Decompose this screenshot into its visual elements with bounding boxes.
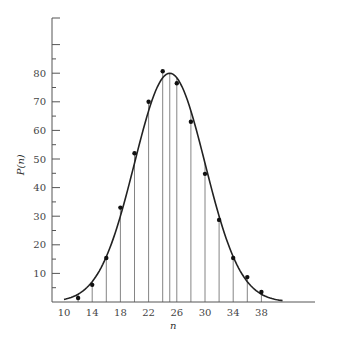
fit-curve-group bbox=[64, 73, 283, 300]
x-tick-label: 38 bbox=[255, 307, 268, 318]
y-tick-label: 70 bbox=[33, 96, 46, 107]
y-tick-label: 40 bbox=[33, 182, 46, 193]
data-point bbox=[161, 69, 165, 73]
data-point bbox=[146, 100, 150, 104]
stems-group bbox=[78, 71, 261, 302]
y-tick-label: 10 bbox=[33, 268, 46, 279]
y-tick-label: 50 bbox=[33, 154, 46, 165]
y-tick-label: 30 bbox=[33, 211, 46, 222]
y-tick-label: 20 bbox=[33, 239, 46, 250]
data-point bbox=[189, 120, 193, 124]
data-point bbox=[203, 172, 207, 176]
x-axis-label: n bbox=[170, 320, 176, 331]
y-axis-label: P(n) bbox=[15, 154, 26, 176]
data-point bbox=[90, 283, 94, 287]
data-point bbox=[259, 290, 263, 294]
x-tick-label: 22 bbox=[142, 307, 155, 318]
x-tick-label: 14 bbox=[86, 307, 99, 318]
ticks-group: 10203040506070801014182226303438 bbox=[33, 45, 268, 318]
x-tick-label: 34 bbox=[227, 307, 240, 318]
x-tick-label: 30 bbox=[199, 307, 212, 318]
data-point bbox=[217, 218, 221, 222]
y-tick-label: 80 bbox=[33, 68, 46, 79]
y-tick-label: 60 bbox=[33, 125, 46, 136]
data-point bbox=[132, 151, 136, 155]
data-point bbox=[231, 256, 235, 260]
axes-group bbox=[52, 18, 315, 302]
data-point bbox=[104, 256, 108, 260]
x-tick-label: 10 bbox=[58, 307, 71, 318]
data-point bbox=[76, 296, 80, 300]
data-point bbox=[245, 275, 249, 279]
data-point bbox=[175, 81, 179, 85]
x-tick-label: 26 bbox=[170, 307, 183, 318]
x-tick-label: 18 bbox=[114, 307, 127, 318]
gaussian-fit-curve bbox=[64, 73, 283, 300]
chart: 10203040506070801014182226303438 n P(n) bbox=[0, 0, 339, 342]
data-point bbox=[118, 205, 122, 209]
